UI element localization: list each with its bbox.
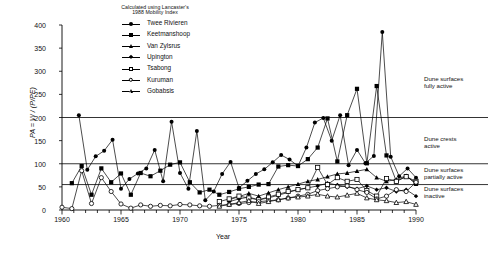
chart-figure: PA = W / (P/PE) Year Calculated using La…: [0, 0, 495, 255]
zone-annotations: Dune surfacesfully activeDune crestsacti…: [424, 0, 495, 255]
zone-label-line-2: active: [424, 142, 457, 149]
zone-label: Dune crestsactive: [424, 135, 457, 150]
x-tick-label: 1965: [104, 216, 138, 223]
zone-label-line-2: partially active: [424, 173, 463, 180]
x-tick-label: 1985: [340, 216, 374, 223]
zone-label-line-2: fully active: [424, 82, 463, 89]
zone-label-line-1: Dune crests: [424, 135, 457, 142]
zone-label: Dune surfacesinactive: [424, 185, 463, 200]
x-tick-label: 1975: [222, 216, 256, 223]
x-tick-labels: 1960196519701975198019851990: [0, 0, 495, 255]
zone-label-line-2: inactive: [424, 192, 463, 199]
x-tick-label: 1980: [281, 216, 315, 223]
zone-label: Dune surfacesfully active: [424, 75, 463, 90]
zone-label: Dune surfacespartially active: [424, 166, 463, 181]
zone-label-line-1: Dune surfaces: [424, 185, 463, 192]
zone-label-line-1: Dune surfaces: [424, 75, 463, 82]
x-tick-label: 1960: [45, 216, 79, 223]
x-tick-label: 1970: [163, 216, 197, 223]
zone-label-line-1: Dune surfaces: [424, 166, 463, 173]
